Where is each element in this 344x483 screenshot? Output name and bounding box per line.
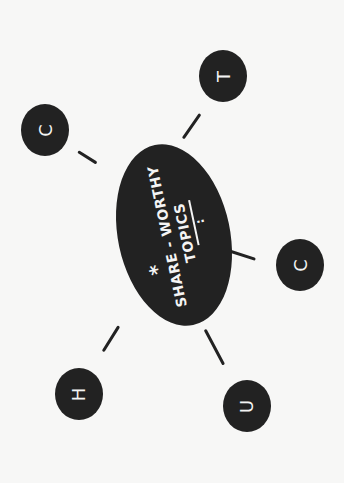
node-letter: T xyxy=(213,71,234,82)
node-letter: C xyxy=(289,259,310,272)
node-right: C xyxy=(276,239,324,291)
central-topic-label: * SHARE - WORTHY TOPICS : xyxy=(120,138,229,333)
node-top-right: T xyxy=(199,50,247,102)
node-letter: U xyxy=(237,399,258,412)
central-topic: * SHARE - WORTHY TOPICS : xyxy=(100,133,248,336)
mind-map-diagram: * SHARE - WORTHY TOPICS : C T C U H xyxy=(0,0,344,483)
connector-top-left xyxy=(77,150,97,164)
node-top-left: C xyxy=(21,104,69,156)
node-letter: C xyxy=(34,124,55,137)
node-letter: H xyxy=(68,387,89,401)
connector-bottom-left xyxy=(102,325,120,352)
connector-bottom xyxy=(204,329,225,366)
node-bottom-left: H xyxy=(55,368,103,420)
node-bottom: U xyxy=(223,380,271,432)
